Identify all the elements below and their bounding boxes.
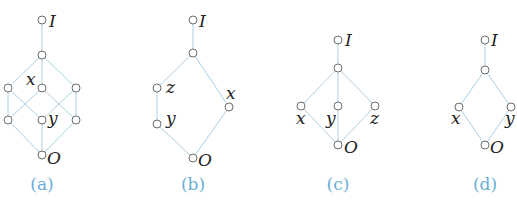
node-l1 — [4, 84, 12, 92]
node-t — [38, 51, 46, 59]
node-label-O: O — [47, 148, 61, 168]
caption-c: (c) — [327, 174, 350, 194]
caption-d: (d) — [473, 174, 497, 194]
node-t — [189, 49, 197, 57]
edge-t-z — [338, 68, 375, 106]
node-label-I: I — [198, 11, 206, 31]
node-I — [334, 36, 342, 44]
node-l2 — [4, 116, 12, 124]
node-t — [481, 66, 489, 74]
node-label-y: y — [165, 108, 176, 128]
node-O — [189, 154, 197, 162]
node-label-O: O — [198, 150, 212, 170]
node-I — [189, 16, 197, 24]
edge-x-O — [459, 107, 485, 145]
node-label-I: I — [48, 11, 56, 31]
edge-l2-O — [8, 120, 42, 155]
node-label-x: x — [226, 83, 236, 103]
node-O — [334, 141, 342, 149]
edge-t-x — [459, 70, 485, 107]
node-r1 — [72, 84, 80, 92]
node-x — [225, 103, 233, 111]
node-label-y: y — [504, 108, 515, 128]
node-I — [481, 36, 489, 44]
edge-t-x — [193, 53, 229, 107]
node-t — [334, 64, 342, 72]
node-label-y: y — [325, 108, 336, 128]
diagram-a: IxyO — [4, 11, 80, 168]
diagram-b: IzyxO — [153, 11, 236, 170]
node-label-x: x — [26, 69, 36, 89]
node-label-I: I — [490, 30, 498, 50]
edge-t-l1 — [8, 55, 42, 88]
node-label-y: y — [47, 108, 58, 128]
node-label-O: O — [344, 137, 358, 157]
caption-a: (a) — [30, 174, 53, 194]
edge-t-r1 — [42, 55, 76, 88]
node-label-x: x — [296, 108, 306, 128]
node-r2 — [72, 116, 80, 124]
node-label-x: x — [451, 108, 461, 128]
diagram-d: IxyO — [451, 30, 515, 157]
node-I — [38, 16, 46, 24]
node-z — [153, 84, 161, 92]
node-label-I: I — [344, 30, 352, 50]
node-label-z: z — [369, 108, 380, 128]
caption-b: (b) — [181, 174, 205, 194]
diagram-c: IxyzO — [296, 30, 380, 157]
node-O — [38, 151, 46, 159]
edge-t-z — [157, 53, 193, 88]
edge-t-x — [301, 68, 338, 106]
edge-y-O — [157, 124, 193, 158]
edge-t-y — [485, 70, 511, 107]
node-label-z: z — [165, 77, 176, 97]
node-x — [38, 84, 46, 92]
node-y — [38, 116, 46, 124]
node-y — [153, 120, 161, 128]
node-O — [481, 141, 489, 149]
lattice-figure: IxyO IzyxO IxyzO IxyO (a)(b)(c)(d) — [0, 0, 517, 203]
node-label-O: O — [490, 137, 504, 157]
